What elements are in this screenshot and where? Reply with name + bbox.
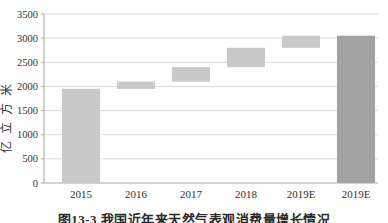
y-tick-label-2000: 2000 <box>17 81 38 92</box>
bar-2018-3 <box>227 48 265 67</box>
bar-2017-2 <box>172 67 210 81</box>
waterfall-chart: 0500100015002000250030003500201520162017… <box>0 0 388 210</box>
y-tick-label-3000: 3000 <box>17 33 38 44</box>
y-tick-label-3500: 3500 <box>17 9 38 20</box>
y-tick-label-0: 0 <box>33 178 38 189</box>
y-tick-label-500: 500 <box>22 153 38 164</box>
bar-2015-0 <box>62 89 100 183</box>
y-axis-title: 亿立方米 <box>0 77 14 153</box>
figure: 0500100015002000250030003500201520162017… <box>0 0 388 223</box>
x-tick-label-3: 2018 <box>235 188 258 200</box>
x-tick-label-4: 2019E <box>287 188 316 200</box>
x-tick-label-5: 2019E <box>342 188 371 200</box>
y-tick-label-2500: 2500 <box>17 57 38 68</box>
x-tick-label-1: 2016 <box>125 188 148 200</box>
y-tick-label-1000: 1000 <box>17 129 38 140</box>
y-tick-label-1500: 1500 <box>17 105 38 116</box>
figure-caption: 图13-3 我国近年来天然气表观消费量增长情况 <box>0 212 388 223</box>
bar-2019E-5 <box>337 36 375 183</box>
x-tick-label-0: 2015 <box>70 188 93 200</box>
bar-2016-1 <box>117 82 155 89</box>
x-tick-label-2: 2017 <box>180 188 203 200</box>
bar-2019E-4 <box>282 36 320 48</box>
chart-canvas: 0500100015002000250030003500201520162017… <box>0 0 388 210</box>
